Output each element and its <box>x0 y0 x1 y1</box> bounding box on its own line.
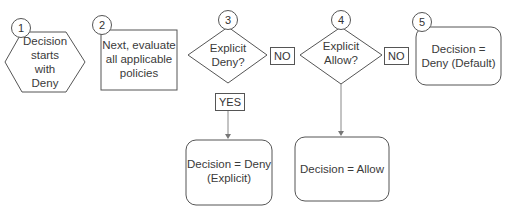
step-1-line-2: starts <box>31 48 59 62</box>
step-4-line-2: Allow? <box>324 53 358 67</box>
deny-no-label: NO <box>270 47 295 65</box>
step-2-line-2: all applicable <box>106 52 173 66</box>
allow-no-label: NO <box>384 47 409 65</box>
step-1-line-1: Decision <box>23 34 67 48</box>
step-1-line-3: with <box>35 62 55 76</box>
step-5-line-1: Decision = <box>431 42 485 56</box>
allow-line-1: Decision = Allow <box>300 162 384 176</box>
step-2-line-3: policies <box>120 66 158 80</box>
step-5-line-2: Deny (Default) <box>421 56 495 70</box>
step-3-text: Explicit Deny? <box>198 38 258 72</box>
step-4-line-1: Explicit <box>323 39 359 53</box>
step-3-line-1: Explicit <box>210 41 246 55</box>
step-1-text: Decision starts with Deny <box>20 32 70 92</box>
explicit-deny-line-2: (Explicit) <box>207 171 251 185</box>
allow-text: Decision = Allow <box>295 137 389 201</box>
step-2-line-1: Next, evaluate <box>102 38 176 52</box>
step-3-line-2: Deny? <box>211 55 244 69</box>
explicit-deny-line-1: Decision = Deny <box>187 157 271 171</box>
step-2-text: Next, evaluate all applicable policies <box>101 30 177 88</box>
arrow-head-down-icon <box>225 134 231 139</box>
step-5-text: Decision = Deny (Default) <box>416 27 501 85</box>
step-3-number-badge: 3 <box>218 10 238 30</box>
arrow-head-down-icon <box>338 131 344 136</box>
step-4-number-badge: 4 <box>331 10 351 30</box>
step-4-text: Explicit Allow? <box>311 36 371 70</box>
explicit-deny-text: Decision = Deny (Explicit) <box>186 140 272 202</box>
step-1-line-4: Deny <box>32 76 59 90</box>
deny-yes-label: YES <box>215 93 245 111</box>
